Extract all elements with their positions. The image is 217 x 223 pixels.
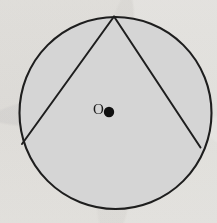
center-point-label: O (93, 101, 104, 117)
geometry-diagram: O (0, 0, 217, 223)
figure-canvas: O (0, 0, 217, 223)
center-point-dot (104, 107, 114, 117)
circle (20, 17, 212, 209)
